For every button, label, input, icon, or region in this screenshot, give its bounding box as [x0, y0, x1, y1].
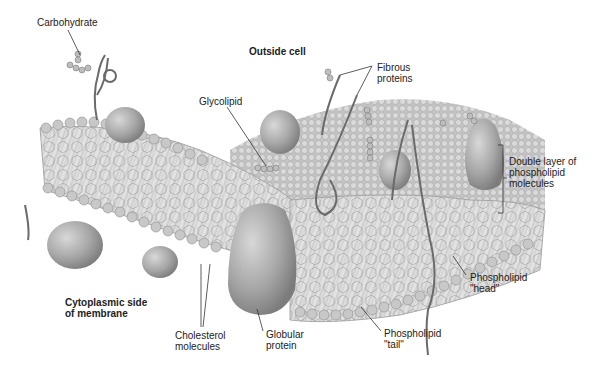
label-globular-protein-line2: protein [266, 340, 297, 351]
label-globular-protein-line1: Globular [266, 329, 304, 340]
label-fibrous-proteins-line2: proteins [377, 73, 413, 84]
region-outside-cell: Outside cell [249, 46, 306, 57]
label-phospholipid-tail-line2: "tail" [384, 339, 404, 350]
label-double-layer-line1: Double layer of [509, 156, 576, 167]
region-cytoplasmic-line1: Cytoplasmic side [65, 297, 147, 308]
label-carbohydrate: Carbohydrate [37, 17, 98, 28]
label-double-layer-line3: molecules [509, 178, 554, 189]
membrane-diagram: Carbohydrate Outside cell Glycolipid Fib… [0, 0, 600, 374]
label-fibrous-proteins-line1: Fibrous [377, 62, 410, 73]
label-double-layer-line2: phospholipid [509, 167, 565, 178]
label-phospholipid-tail-line1: Phospholipid [384, 328, 441, 339]
label-cholesterol-line2: molecules [175, 341, 220, 352]
region-cytoplasmic-line2: of membrane [65, 308, 128, 319]
label-glycolipid: Glycolipid [199, 96, 242, 107]
label-phospholipid-head-line2: "head" [470, 283, 499, 294]
label-phospholipid-head-line1: Phospholipid [470, 272, 527, 283]
label-cholesterol-line1: Cholesterol [175, 330, 226, 341]
